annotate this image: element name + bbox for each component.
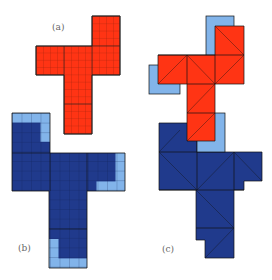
label-c: (c) bbox=[162, 244, 174, 254]
panel-c: (c) bbox=[149, 16, 262, 258]
label-b: (b) bbox=[18, 243, 31, 253]
figure: (a) (b) bbox=[0, 0, 272, 280]
panel-b: (b) bbox=[12, 113, 125, 268]
label-a: (a) bbox=[52, 22, 64, 32]
